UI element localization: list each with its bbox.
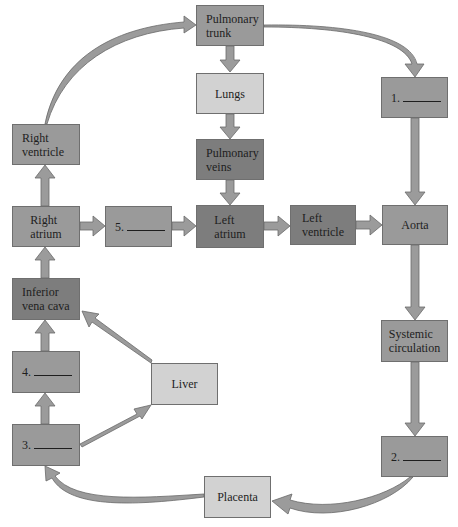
arrow-ra-to-5 — [80, 216, 105, 236]
node-aorta: Aorta — [382, 205, 448, 245]
node-inferior-vena-cava: Inferiorvena cava — [12, 278, 80, 320]
arrow-liver-to-ivc — [82, 311, 152, 363]
node-systemic-circulation: Systemiccirculation — [381, 320, 448, 362]
answer-blank-5 — [127, 221, 165, 231]
node-placenta: Placenta — [204, 476, 271, 518]
node-lungs: Lungs — [196, 73, 264, 114]
answer-blank-3 — [34, 439, 72, 449]
arrow-5-to-la — [172, 216, 196, 236]
node-blank-2: 2. — [381, 436, 448, 477]
node-left-ventricle: Leftventricle — [290, 205, 356, 245]
answer-blank-2 — [403, 451, 441, 461]
answer-blank-1 — [403, 92, 441, 102]
arrow-placenta-to-3 — [45, 466, 204, 503]
arrow-la-to-lv — [264, 216, 290, 236]
node-blank-4: 4. — [12, 351, 80, 393]
arrow-2-to-placenta — [272, 477, 413, 514]
node-blank-5: 5. — [105, 206, 172, 247]
arrow-veins-to-left-atrium — [220, 180, 240, 205]
arrow-3-to-4 — [35, 393, 55, 424]
arrow-rv-to-pulmonary-trunk — [45, 16, 196, 124]
node-right-ventricle: Rightventricle — [12, 124, 80, 165]
arrow-4-to-ivc — [35, 320, 55, 351]
arrow-1-to-aorta — [405, 118, 425, 205]
node-right-atrium: Rightatrium — [12, 206, 80, 247]
node-blank-3: 3. — [12, 424, 80, 466]
arrow-3-to-liver — [80, 405, 151, 447]
arrow-lungs-to-veins — [220, 114, 240, 139]
node-pulmonary-veins: Pulmonaryveins — [196, 139, 264, 180]
arrow-lv-to-aorta — [356, 215, 382, 235]
node-blank-1: 1. — [381, 77, 448, 118]
node-left-atrium: Leftatrium — [196, 205, 264, 248]
arrow-pulmonary-trunk-to-1 — [264, 25, 424, 77]
arrow-trunk-to-lungs — [220, 46, 240, 72]
answer-blank-4 — [34, 366, 72, 376]
arrow-ra-to-rv — [35, 165, 55, 206]
node-liver: Liver — [151, 363, 218, 405]
arrow-aorta-to-systemic — [405, 245, 425, 320]
arrow-systemic-to-2 — [405, 362, 425, 436]
node-pulmonary-trunk: Pulmonarytrunk — [196, 5, 264, 46]
arrow-ivc-to-ra — [35, 247, 55, 278]
